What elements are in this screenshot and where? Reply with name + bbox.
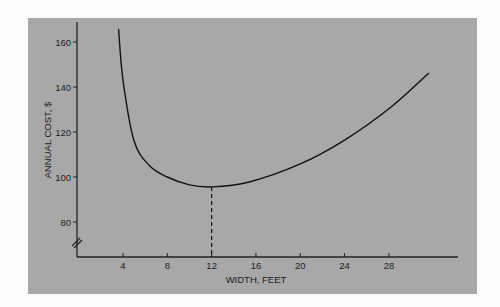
y-tick-label: 120	[55, 127, 71, 138]
cost-vs-width-chart: 80100120140160 481216202428 WIDTH, FEET …	[0, 0, 500, 307]
y-tick-label: 160	[55, 37, 71, 48]
x-tick-label: 20	[295, 260, 306, 271]
y-tick-label: 100	[55, 172, 71, 183]
x-tick-label: 8	[165, 260, 170, 271]
cost-curve	[119, 29, 429, 187]
x-tick-label: 12	[206, 260, 217, 271]
x-tick-label: 28	[384, 260, 395, 271]
x-tick-label: 16	[251, 260, 262, 271]
x-ticks: 481216202428	[120, 253, 394, 271]
y-axis-label: ANNUAL COST, $	[42, 101, 53, 178]
x-axis-label: WIDTH, FEET	[226, 274, 287, 285]
y-tick-label: 140	[55, 82, 71, 93]
y-ticks: 80100120140160	[55, 37, 77, 228]
x-tick-label: 4	[120, 260, 125, 271]
y-tick-label: 80	[60, 217, 71, 228]
x-tick-label: 24	[339, 260, 350, 271]
